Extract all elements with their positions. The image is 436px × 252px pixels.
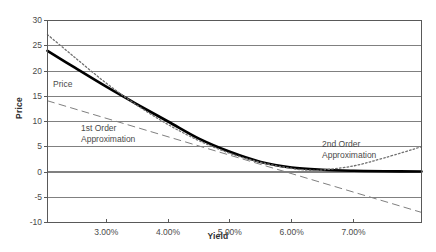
series-label-first-order-approximation: 1st Order Approximation bbox=[81, 123, 135, 144]
chart-container: Price Yield -10-5051015202530 3.00%4.00%… bbox=[0, 0, 436, 252]
x-axis-tick-marks bbox=[106, 219, 353, 223]
series-label-second-order-approximation: 2nd Order Approximation bbox=[322, 139, 376, 160]
gridlines bbox=[48, 21, 422, 223]
series-label-price: Price bbox=[53, 79, 72, 90]
plot-area bbox=[0, 0, 436, 252]
